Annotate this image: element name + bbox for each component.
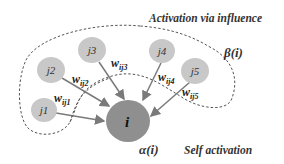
node-j5: j5	[181, 58, 209, 84]
node-i: i	[106, 100, 150, 142]
alpha-label: α(i)	[139, 142, 158, 157]
activation-via-influence-caption: Activation via influence	[148, 12, 262, 25]
weight-label-ij3: wij3	[111, 56, 127, 72]
weight-label-ij2: wij2	[72, 72, 88, 88]
svg-text:j2: j2	[45, 64, 56, 76]
beta-label: β(i)	[223, 45, 243, 60]
node-j4: j4	[149, 39, 175, 63]
weight-label-ij4: wij4	[158, 70, 174, 86]
edge-j1-i	[56, 113, 104, 121]
influence-diagram: j1 j2 j3 j4 j5 i wij1 wij2 wij3 wij4 wij…	[0, 0, 284, 164]
svg-text:j5: j5	[189, 65, 200, 77]
svg-text:j4: j4	[156, 45, 167, 57]
diagram-svg: j1 j2 j3 j4 j5 i wij1 wij2 wij3 wij4 wij…	[0, 0, 284, 164]
node-j3: j3	[78, 37, 106, 63]
self-activation-caption: Self activation	[184, 144, 252, 157]
svg-text:j3: j3	[86, 44, 97, 56]
weight-label-ij5: wij5	[182, 85, 198, 101]
weight-label-ij1: wij1	[54, 91, 70, 107]
node-j2: j2	[37, 57, 65, 83]
svg-text:j1: j1	[38, 104, 49, 116]
